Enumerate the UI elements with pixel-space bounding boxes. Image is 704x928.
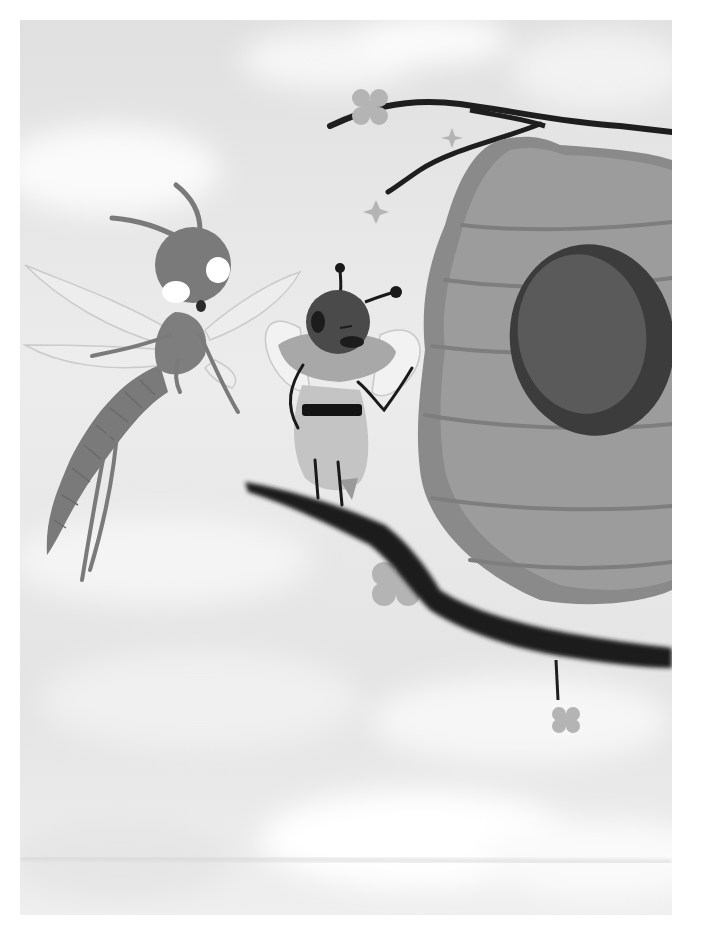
illustration-frame: Grayscale storybook illustration: a mosq… <box>20 20 672 915</box>
illustration-canvas <box>20 20 672 915</box>
bee-stripe <box>302 404 362 416</box>
mosquito-mouth <box>196 300 206 312</box>
bee-body <box>294 385 368 490</box>
mosquito-eye-left <box>162 281 190 303</box>
mosquito-eye-right <box>206 257 230 283</box>
beehive <box>418 137 672 604</box>
bee-eye-left <box>311 311 325 333</box>
bee-eye-right <box>340 336 364 348</box>
